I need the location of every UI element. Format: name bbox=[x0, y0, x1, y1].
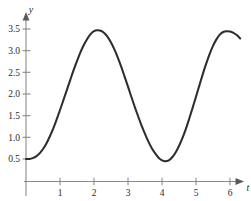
y-tick-label-3-5: 3.5 bbox=[8, 24, 20, 34]
y-tick-label-2-5: 2.5 bbox=[8, 68, 20, 78]
x-axis-tick-labels: 1 2 3 4 5 6 bbox=[58, 188, 233, 198]
y-tick-label-2-0: 2.0 bbox=[8, 89, 20, 99]
y-axis-tick-labels: 3.5 3.0 2.5 2.0 1.5 1.0 0.5 bbox=[8, 24, 20, 164]
x-tick-label-2: 2 bbox=[92, 188, 97, 198]
y-tick-label-0-5: 0.5 bbox=[8, 154, 20, 164]
figure-container: 3.5 3.0 2.5 2.0 1.5 1.0 0.5 1 2 3 4 5 6 bbox=[0, 0, 251, 201]
plot-canvas: 3.5 3.0 2.5 2.0 1.5 1.0 0.5 1 2 3 4 5 6 bbox=[0, 0, 251, 201]
y-tick-label-1-0: 1.0 bbox=[8, 133, 20, 143]
x-tick-label-6: 6 bbox=[228, 188, 233, 198]
x-tick-label-4: 4 bbox=[160, 188, 165, 198]
x-tick-label-5: 5 bbox=[194, 188, 199, 198]
x-tick-label-1: 1 bbox=[58, 188, 63, 198]
y-tick-label-3-0: 3.0 bbox=[8, 46, 20, 56]
x-axis-label: t bbox=[247, 182, 250, 193]
data-curve bbox=[26, 30, 240, 161]
x-axis-arrow-icon bbox=[236, 178, 245, 185]
y-axis-label: y bbox=[28, 4, 34, 15]
y-tick-label-1-5: 1.5 bbox=[8, 111, 20, 121]
x-tick-label-3: 3 bbox=[126, 188, 131, 198]
